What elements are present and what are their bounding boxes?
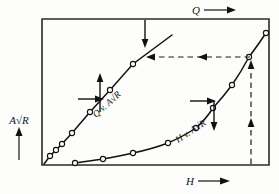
left-axis-label: A√R — [8, 114, 29, 126]
top-axis-arrow-icon — [204, 7, 236, 14]
plot-frame — [42, 19, 269, 165]
horizontal-dashed-guide — [146, 54, 250, 61]
vertical-dashed-guide — [248, 60, 255, 164]
figure-container: Q A√R H Q v. A√R — [0, 0, 279, 194]
left-axis-arrow-icon — [16, 127, 23, 160]
h-curve-label: H v. A√R — [173, 118, 208, 146]
curve-right-arrow-icon — [190, 98, 216, 105]
q-down-arrow-icon — [142, 20, 149, 48]
chart-svg: Q A√R H Q v. A√R — [0, 0, 279, 194]
bottom-axis-label: H — [185, 175, 195, 187]
top-axis-label: Q — [192, 4, 200, 16]
bottom-axis-arrow-icon — [198, 178, 230, 185]
